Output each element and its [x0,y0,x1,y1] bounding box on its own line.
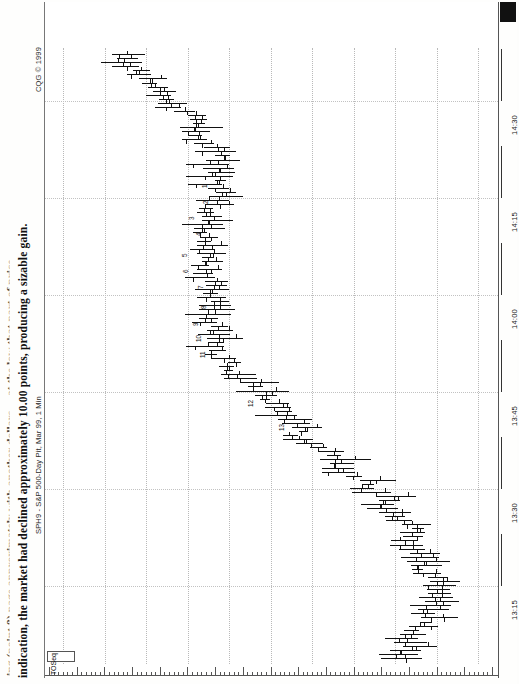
ohlc-open-tick [260,383,261,387]
ohlc-close-tick [399,638,400,642]
ohlc-close-tick [402,513,403,517]
ohlc-close-tick [304,440,305,444]
ohlc-open-tick [412,646,413,650]
time-axis-segment [501,437,502,489]
minute-tick [340,672,341,676]
minute-tick [381,667,382,676]
ohlc-open-tick [440,606,441,610]
minute-tick [344,672,345,676]
ohlc-close-tick [431,626,432,630]
ohlc-close-tick [206,314,207,318]
minute-tick [404,672,405,676]
ohlc-chart[interactable]: 12345678910111213 TOSeq [44,2,499,678]
ohlc-close-tick [193,278,194,282]
ohlc-close-tick [124,59,125,63]
ohlc-bar [190,119,207,120]
ohlc-close-tick [215,172,216,176]
time-gridline [45,101,498,102]
minute-tick [224,672,225,676]
ohlc-close-tick [297,423,298,427]
ohlc-open-tick [208,342,209,346]
ohlc-close-tick [206,213,207,217]
ohlc-close-tick [214,217,215,221]
minute-tick [86,672,87,676]
ohlc-bar [385,638,418,639]
minute-tick [229,672,230,676]
ohlc-bar [112,66,140,67]
ohlc-close-tick [376,480,377,484]
ohlc-close-tick [417,529,418,533]
ohlc-open-tick [211,140,212,144]
ohlc-close-tick [361,488,362,492]
ohlc-bar [266,403,289,404]
ohlc-open-tick [185,107,186,111]
ohlc-close-tick [318,448,319,452]
ohlc-close-tick [412,533,413,537]
ohlc-close-tick [381,505,382,509]
ohlc-bar [198,334,229,335]
ohlc-close-tick [418,569,419,573]
ohlc-close-tick [426,606,427,610]
minute-tick [330,672,331,676]
ohlc-open-tick [408,492,409,496]
minute-tick [123,672,124,676]
ohlc-close-tick [405,654,406,658]
minute-tick [183,672,184,676]
ohlc-open-tick [362,484,363,488]
ohlc-close-tick [284,419,285,423]
ohlc-close-tick [227,367,228,371]
ohlc-bar [112,54,145,55]
ohlc-open-tick [214,286,215,290]
minute-tick [469,672,470,676]
ohlc-close-tick [208,310,209,314]
ohlc-close-tick [193,164,194,168]
ohlc-open-tick [217,180,218,184]
ohlc-open-tick [202,116,203,120]
bar-count-annotation: 8 [200,306,207,310]
ohlc-close-tick [405,634,406,638]
ohlc-close-tick [218,160,219,164]
minute-tick [432,672,433,676]
ohlc-close-tick [228,375,229,379]
ohlc-open-tick [141,67,142,71]
ohlc-bar [381,658,422,659]
ohlc-close-tick [196,120,197,124]
ohlc-open-tick [221,152,222,156]
ohlc-close-tick [202,225,203,229]
study-tag-toseq[interactable]: TOSeq [47,651,75,662]
ohlc-open-tick [217,278,218,282]
minute-tick [414,672,415,676]
ohlc-close-tick [219,180,220,184]
ohlc-close-tick [211,237,212,241]
ohlc-open-tick [215,310,216,314]
ohlc-close-tick [150,79,151,83]
time-axis-segment [501,49,502,101]
ohlc-open-tick [221,282,222,286]
ohlc-open-tick [440,598,441,602]
ohlc-open-tick [436,557,437,561]
ohlc-close-tick [338,468,339,472]
minute-tick [423,672,424,676]
time-tick-label: 13:30 [510,503,519,523]
ohlc-close-tick [127,67,128,71]
ohlc-close-tick [418,565,419,569]
ohlc-open-tick [412,521,413,525]
ohlc-close-tick [398,496,399,500]
ohlc-open-tick [396,655,397,659]
ohlc-bar [208,188,230,189]
ohlc-close-tick [253,383,254,387]
ohlc-open-tick [415,626,416,630]
minute-tick [409,667,410,676]
bar-count-annotation: 9 [192,322,199,326]
ohlc-close-tick [437,590,438,594]
ohlc-close-tick [220,302,221,306]
ohlc-open-tick [220,306,221,310]
ohlc-open-tick [169,99,170,103]
ohlc-close-tick [427,610,428,614]
minute-tick [303,672,304,676]
ohlc-open-tick [435,573,436,577]
minute-tick [271,667,272,676]
minute-tick [127,672,128,676]
ohlc-close-tick [139,71,140,75]
ohlc-open-tick [155,83,156,87]
